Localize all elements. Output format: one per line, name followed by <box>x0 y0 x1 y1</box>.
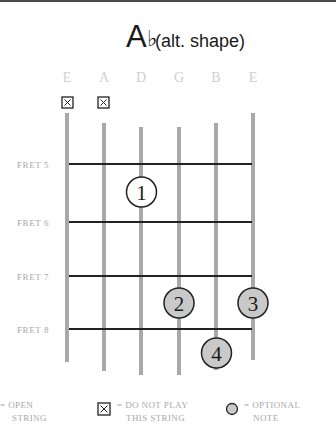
finger-dot-1: 1 <box>127 177 157 207</box>
finger-dot-4: 4 <box>202 338 232 368</box>
chord-qualifier: (alt. shape) <box>155 31 245 51</box>
string-label-g: G <box>174 70 184 85</box>
fret-label-6: FRET 6 <box>17 218 49 228</box>
legend-mute-line2: THIS STRING <box>126 413 185 423</box>
string-label-low-e: E <box>63 70 72 85</box>
string-label-d: D <box>136 70 146 85</box>
legend: = OPEN STRING = DO NOT PLAY THIS STRING … <box>0 400 300 423</box>
chord-root: A <box>126 19 147 54</box>
finger-number: 1 <box>136 181 147 205</box>
legend-optional-line1: = OPTIONAL <box>244 400 300 410</box>
finger-dot-2: 2 <box>164 288 194 318</box>
finger-number: 2 <box>174 292 185 316</box>
fret-label-8: FRET 8 <box>17 325 49 335</box>
string-label-b: B <box>211 70 220 85</box>
optional-circle-icon <box>227 404 238 415</box>
legend-optional: = OPTIONAL NOTE <box>227 400 301 423</box>
legend-open: = OPEN STRING <box>0 400 47 423</box>
fret-labels: FRET 5 FRET 6 FRET 7 FRET 8 <box>17 160 49 335</box>
legend-open-line1: = OPEN <box>0 400 33 410</box>
finger-number: 4 <box>211 342 222 366</box>
chord-diagram: A ♭ (alt. shape) E A D G B E <box>0 0 336 437</box>
finger-dot-3: 3 <box>238 288 268 318</box>
string-label-high-e: E <box>249 70 258 85</box>
fret-label-7: FRET 7 <box>17 272 49 282</box>
muted-marker-low-e <box>62 97 73 108</box>
finger-number: 3 <box>248 292 259 316</box>
legend-mute: = DO NOT PLAY THIS STRING <box>98 400 188 423</box>
fret-label-5: FRET 5 <box>17 160 49 170</box>
muted-marker-a <box>98 97 109 108</box>
strings <box>67 113 253 375</box>
string-label-a: A <box>99 70 110 85</box>
fret-lines <box>69 164 252 329</box>
legend-optional-line2: NOTE <box>253 413 279 423</box>
string-labels: E A D G B E <box>63 70 258 85</box>
legend-mute-line1: = DO NOT PLAY <box>117 400 188 410</box>
legend-open-line2: STRING <box>12 413 47 423</box>
chord-title: A ♭ (alt. shape) <box>126 19 245 54</box>
